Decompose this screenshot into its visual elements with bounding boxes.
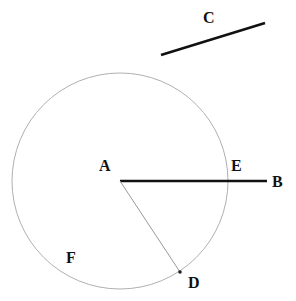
label-a: A (99, 158, 111, 174)
label-d: D (188, 275, 200, 291)
label-c: C (203, 10, 215, 26)
label-f: F (66, 250, 76, 266)
geometry-diagram: A B C D E F (0, 0, 296, 301)
label-b: B (272, 174, 283, 190)
segment-c (161, 23, 265, 55)
diagram-canvas (0, 0, 296, 301)
point-d (178, 270, 182, 274)
radius-ad (120, 181, 180, 272)
label-e: E (231, 158, 242, 174)
